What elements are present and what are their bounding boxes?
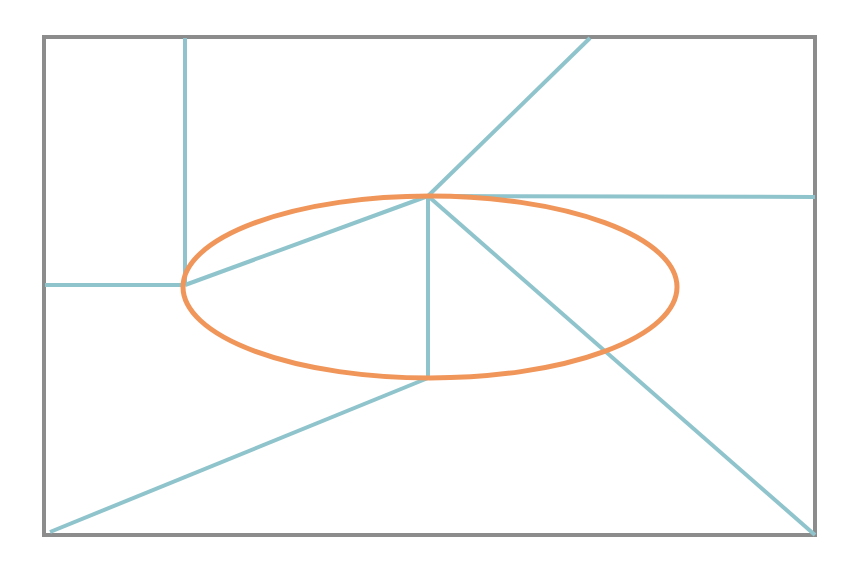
geometric-diagram-canvas	[0, 0, 854, 571]
